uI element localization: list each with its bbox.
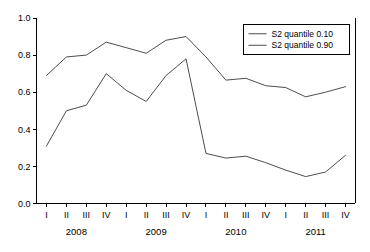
series-group xyxy=(46,37,345,177)
legend-label: S2 quantile 0.90 xyxy=(272,40,334,50)
x-axis-year-label: 2011 xyxy=(305,226,325,237)
y-axis: 0.00.20.40.60.81.0 xyxy=(18,13,37,209)
x-tick-label: II xyxy=(144,210,149,220)
x-tick-label: III xyxy=(162,210,170,220)
y-tick-label: 0.2 xyxy=(18,162,31,172)
y-tick-label: 0.0 xyxy=(18,199,31,209)
y-tick-group: 0.00.20.40.60.81.0 xyxy=(18,13,37,209)
x-axis-year-label: 2009 xyxy=(146,226,167,237)
x-tick-group: IIIIIIIVIIIIIIIVIIIIIIIVIIIIIIIV xyxy=(45,204,350,220)
x-tick-label: II xyxy=(64,210,69,220)
y-tick-label: 0.4 xyxy=(18,125,31,135)
x-tick-label: IV xyxy=(341,210,350,220)
x-tick-label: I xyxy=(205,210,208,220)
x-tick-label: III xyxy=(83,210,91,220)
quantile-line-chart: 0.00.20.40.60.81.0 IIIIIIIVIIIIIIIVIIIII… xyxy=(0,0,370,252)
y-tick-label: 0.8 xyxy=(18,50,31,60)
chart-legend: S2 quantile 0.10S2 quantile 0.90 xyxy=(244,25,350,55)
x-axis-year-label: 2008 xyxy=(66,226,87,237)
x-tick-label: II xyxy=(303,210,308,220)
x-tick-label: IV xyxy=(262,210,271,220)
x-tick-label: IV xyxy=(102,210,111,220)
year-label-group: 2008200920102011 xyxy=(66,226,326,237)
x-tick-label: I xyxy=(125,210,128,220)
x-tick-label: II xyxy=(223,210,228,220)
chart-svg: 0.00.20.40.60.81.0 IIIIIIIVIIIIIIIVIIIII… xyxy=(0,0,370,252)
series-line xyxy=(46,59,345,177)
x-axis-year-label: 2010 xyxy=(225,226,246,237)
y-tick-label: 1.0 xyxy=(18,13,31,23)
x-axis: IIIIIIIVIIIIIIIVIIIIIIIVIIIIIIIV 2008200… xyxy=(37,204,356,237)
x-tick-label: III xyxy=(322,210,330,220)
x-tick-label: I xyxy=(45,210,48,220)
legend-label: S2 quantile 0.10 xyxy=(272,29,334,39)
x-tick-label: I xyxy=(284,210,287,220)
x-tick-label: IV xyxy=(182,210,191,220)
y-tick-label: 0.6 xyxy=(18,87,31,97)
x-tick-label: III xyxy=(242,210,250,220)
